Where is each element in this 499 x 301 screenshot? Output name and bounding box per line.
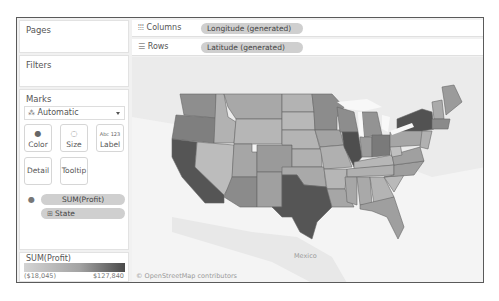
state-pill[interactable]: ⊞ State <box>41 208 125 219</box>
rows-icon: ☰ <box>138 42 145 51</box>
color-button[interactable]: ● Color <box>24 124 52 152</box>
rows-label: Rows <box>148 42 169 51</box>
filled-map[interactable]: Mexico © OpenStreetMap contributors <box>132 57 483 282</box>
longitude-pill[interactable]: Longitude (generated) <box>201 23 303 34</box>
legend-title: SUM(Profit) <box>26 254 71 263</box>
view-area: ⦙⦙⦙ Columns Longitude (generated) ☰ Rows… <box>132 18 483 282</box>
columns-shelf[interactable]: ⦙⦙⦙ Columns Longitude (generated) <box>132 20 483 37</box>
label-icon: Abc 123 <box>97 128 123 140</box>
mark-type-icon: ⁂ <box>28 109 35 117</box>
rows-shelf[interactable]: ☰ Rows Latitude (generated) <box>132 39 483 56</box>
color-legend[interactable]: SUM(Profit) ($18,045) $127,840 <box>19 252 129 282</box>
marks-card: Marks ⁂ Automatic ● Color ◌ Size Abc 123… <box>19 89 129 250</box>
size-button[interactable]: ◌ Size <box>60 124 88 152</box>
pages-title: Pages <box>26 25 51 35</box>
filters-card[interactable]: Filters <box>19 55 129 87</box>
mark-type-dropdown[interactable]: ⁂ Automatic <box>24 106 125 120</box>
legend-gradient <box>24 263 125 272</box>
detail-button[interactable]: Detail <box>24 157 52 185</box>
mark-type-value: Automatic <box>38 108 79 117</box>
map-attribution[interactable]: © OpenStreetMap contributors <box>136 272 237 280</box>
marks-title: Marks <box>26 94 51 104</box>
legend-max: $127,840 <box>93 272 124 280</box>
legend-min: ($18,045) <box>24 272 56 280</box>
tooltip-button[interactable]: Tooltip <box>60 157 88 185</box>
latitude-pill[interactable]: Latitude (generated) <box>201 42 303 53</box>
plus-icon: ⊞ <box>47 210 55 218</box>
label-button[interactable]: Abc 123 Label <box>96 124 124 152</box>
columns-icon: ⦙⦙⦙ <box>138 23 144 32</box>
us-states-map[interactable] <box>132 57 483 282</box>
filters-title: Filters <box>26 60 51 70</box>
size-icon: ◌ <box>61 128 87 140</box>
pages-card[interactable]: Pages <box>19 20 129 53</box>
columns-label: Columns <box>147 23 182 32</box>
mexico-label: Mexico <box>294 252 317 260</box>
color-icon: ● <box>25 128 51 140</box>
tableau-workspace: Pages Filters Marks ⁂ Automatic ● Color … <box>16 17 484 283</box>
sum-profit-pill[interactable]: SUM(Profit) <box>41 194 125 205</box>
chevron-down-icon <box>116 112 120 115</box>
left-panel: Pages Filters Marks ⁂ Automatic ● Color … <box>17 18 130 282</box>
color-icon: ● <box>28 195 35 204</box>
